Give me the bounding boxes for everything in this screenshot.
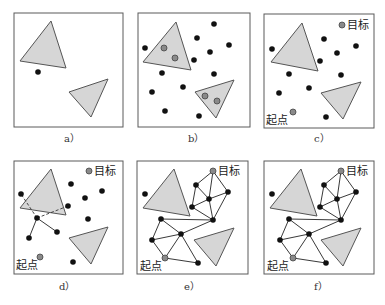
panel-b: b） bbox=[138, 13, 250, 144]
start-label: 起点 bbox=[266, 114, 288, 127]
caption-e: e） bbox=[184, 281, 200, 292]
caption-f: f） bbox=[314, 281, 328, 292]
caption-c: c） bbox=[314, 133, 330, 144]
goal-label: 目标 bbox=[346, 164, 368, 178]
panel-f: 目标 起点 f） bbox=[264, 161, 374, 292]
start-label: 起点 bbox=[267, 260, 289, 273]
goal-label: 目标 bbox=[347, 18, 369, 32]
caption-a: a） bbox=[64, 133, 80, 144]
panel-e: 目标 起点 e） bbox=[137, 161, 248, 292]
panel-a: a） bbox=[14, 13, 123, 144]
start-label: 起点 bbox=[16, 259, 38, 272]
panel-c: 目标 起点 c） bbox=[264, 14, 374, 144]
panel-d: 目标 起点 d） bbox=[14, 161, 123, 292]
goal-label: 目标 bbox=[94, 164, 116, 178]
caption-d: d） bbox=[59, 281, 75, 292]
goal-label: 目标 bbox=[218, 164, 240, 178]
start-label: 起点 bbox=[140, 260, 162, 273]
caption-b: b） bbox=[188, 133, 204, 144]
prm-diagram: a） b） 目标 bbox=[0, 0, 385, 305]
